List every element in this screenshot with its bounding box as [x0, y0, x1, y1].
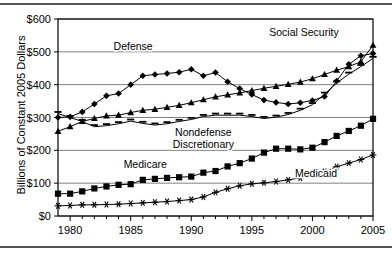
marker-square: [309, 145, 315, 151]
marker-square: [164, 175, 170, 181]
series-line: [58, 53, 373, 117]
marker-diamond: [370, 50, 377, 57]
marker-square: [152, 176, 158, 182]
marker-square: [91, 185, 97, 191]
marker-diamond: [285, 101, 292, 108]
y-tick-label: $600: [27, 13, 51, 25]
marker-square: [358, 123, 364, 129]
marker-square: [212, 168, 218, 174]
y-tick-label: $200: [27, 144, 51, 156]
marker-square: [237, 160, 243, 166]
series-label-defense: Defense: [114, 40, 153, 52]
series-line: [58, 155, 373, 206]
marker-square: [55, 191, 61, 197]
marker-square: [370, 116, 376, 122]
x-tick-label: 1980: [58, 224, 82, 236]
marker-square: [176, 174, 182, 180]
marker-square: [79, 188, 85, 194]
series-medicaid: [55, 152, 377, 209]
marker-diamond: [115, 90, 122, 97]
marker-diamond: [200, 73, 207, 80]
y-tick-label: $300: [27, 112, 51, 124]
marker-square: [249, 155, 255, 161]
marker-square: [188, 174, 194, 180]
marker-diamond: [261, 97, 268, 104]
series-label-medicare: Medicare: [124, 158, 167, 170]
marker-square: [115, 182, 121, 188]
marker-square: [297, 146, 303, 152]
series-social-security: [55, 42, 377, 134]
marker-diamond: [152, 71, 159, 78]
y-tick-label: $0: [39, 210, 51, 222]
series-defense: [55, 50, 377, 121]
marker-square: [128, 181, 134, 187]
marker-square: [334, 133, 340, 139]
marker-diamond: [188, 66, 195, 73]
marker-diamond: [164, 70, 171, 77]
chart-container: Billions of Constant 2005 Dollars $0$100…: [0, 0, 392, 253]
marker-diamond: [79, 109, 86, 116]
marker-diamond: [273, 99, 280, 106]
marker-square: [140, 177, 146, 183]
line-chart-svg: $0$100$200$300$400$500$60019801985199019…: [0, 0, 392, 253]
marker-diamond: [103, 93, 110, 100]
marker-square: [261, 150, 267, 156]
y-tick-label: $500: [27, 46, 51, 58]
marker-square: [67, 191, 73, 197]
marker-square: [285, 146, 291, 152]
series-label-nondefense-discretionary: Nondefense: [175, 126, 232, 138]
marker-square: [346, 128, 352, 134]
series-label-medicaid: Medicaid: [295, 167, 337, 179]
marker-diamond: [91, 101, 98, 108]
x-tick-label: 1985: [118, 224, 142, 236]
series-label-social-security: Social Security: [269, 26, 339, 38]
x-tick-label: 2005: [361, 224, 385, 236]
marker-square: [103, 183, 109, 189]
marker-square: [273, 146, 279, 152]
plot-area: $0$100$200$300$400$500$60019801985199019…: [0, 0, 392, 253]
x-tick-label: 2000: [300, 224, 324, 236]
marker-diamond: [297, 99, 304, 106]
marker-diamond: [55, 114, 62, 121]
marker-square: [200, 170, 206, 176]
y-tick-label: $100: [27, 177, 51, 189]
marker-triangle: [370, 42, 377, 48]
x-tick-label: 1990: [179, 224, 203, 236]
marker-square: [321, 139, 327, 145]
marker-square: [225, 163, 231, 169]
x-tick-label: 1995: [240, 224, 264, 236]
y-tick-label: $400: [27, 79, 51, 91]
marker-diamond: [176, 69, 183, 76]
series-label-nondefense-discretionary: Discretionary: [173, 138, 235, 150]
